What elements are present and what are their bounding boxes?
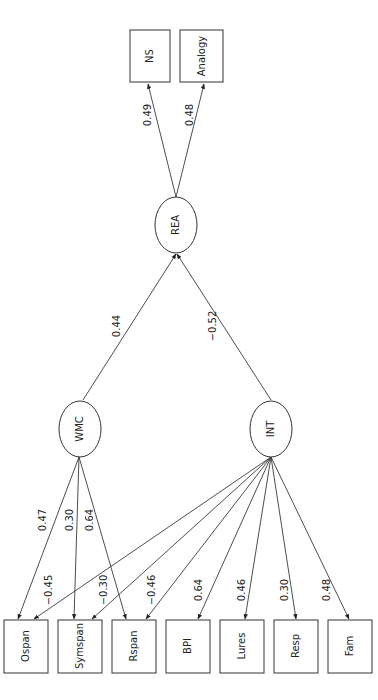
node-wmc: WMC [59, 401, 101, 457]
weight-int-ospan: −0.45 [43, 575, 54, 606]
svg-text:Analogy: Analogy [196, 36, 207, 77]
svg-text:BPI: BPI [182, 638, 193, 654]
weight-int-rea: −0.52 [207, 311, 218, 342]
path-int-lures [245, 457, 271, 619]
svg-text:Resp: Resp [290, 634, 301, 658]
weight-int-rspan: −0.46 [146, 575, 157, 606]
node-ns: NS [130, 30, 170, 82]
node-resp: Resp [274, 620, 318, 673]
svg-text:NS: NS [144, 49, 155, 63]
weight-int-resp: 0.30 [279, 579, 290, 601]
weight-int-bpi: 0.64 [193, 579, 204, 601]
svg-text:Fam: Fam [344, 636, 355, 657]
weight-int-lures: 0.46 [236, 579, 247, 601]
svg-text:Rspan: Rspan [128, 631, 139, 662]
weight-rea-ns: 0.49 [142, 104, 153, 126]
node-fam: Fam [328, 620, 372, 673]
svg-text:WMC: WMC [74, 416, 85, 442]
path-rea-analogy [176, 84, 204, 197]
path-wmc-symspan [74, 457, 79, 619]
svg-text:INT: INT [265, 420, 276, 437]
node-lures: Lures [220, 620, 264, 673]
weight-wmc-symspan: 0.30 [64, 509, 75, 531]
svg-text:REA: REA [170, 215, 181, 235]
weight-wmc-rea: 0.44 [111, 315, 122, 337]
svg-text:Symspan: Symspan [74, 623, 85, 669]
weight-wmc-ospan: 0.47 [37, 509, 48, 531]
path-wmc-rea [83, 254, 176, 400]
svg-text:Ospan: Ospan [20, 630, 31, 662]
svg-text:Lures: Lures [236, 633, 247, 660]
weight-int-fam: 0.48 [321, 579, 332, 601]
sem-diagram: NS Analogy REA WMC INT Ospan Symspan Rsp… [0, 0, 378, 700]
node-symspan: Symspan [58, 620, 102, 673]
path-rea-ns [148, 84, 176, 197]
node-analogy: Analogy [180, 30, 223, 82]
node-ospan: Ospan [4, 620, 48, 673]
node-rea: REA [155, 197, 197, 253]
node-rspan: Rspan [112, 620, 156, 673]
node-int: INT [250, 401, 292, 457]
weight-rea-analogy: 0.48 [184, 104, 195, 126]
weight-wmc-rspan: 0.64 [84, 509, 95, 531]
node-bpi: BPI [166, 620, 210, 673]
weight-int-symspan: −0.30 [98, 575, 109, 606]
path-int-rea [177, 254, 271, 400]
